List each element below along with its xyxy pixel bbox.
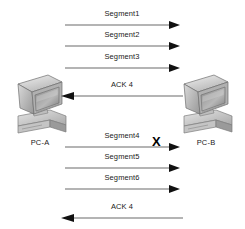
arrow-left-icon xyxy=(61,91,183,100)
message-label: Segment3 xyxy=(64,52,180,62)
message-label: Segment2 xyxy=(64,30,180,40)
message-label: Segment4 xyxy=(64,131,180,141)
host-label-pc-b: PC-B xyxy=(178,138,234,147)
tcp-sequence-diagram: PC-A xyxy=(0,0,245,229)
host-pc-b: PC-B xyxy=(178,70,234,136)
host-label-pc-a: PC-A xyxy=(12,138,68,147)
arrow-right-icon xyxy=(64,184,180,193)
arrow-right-icon xyxy=(64,20,180,29)
message-label: Segment6 xyxy=(64,173,180,183)
arrow-right-icon xyxy=(64,41,180,50)
message-row-segment6: Segment6 xyxy=(64,173,180,195)
desktop-computer-icon xyxy=(178,70,234,136)
message-row-ack4-second: ACK 4 xyxy=(61,202,183,224)
desktop-computer-icon xyxy=(12,70,68,136)
message-row-ack4-first: ACK 4 xyxy=(61,80,183,102)
message-row-segment3: Segment3 xyxy=(64,52,180,74)
segment-loss-x-marker: X xyxy=(152,135,161,148)
message-row-segment4: Segment4 xyxy=(64,131,180,153)
message-row-segment5: Segment5 xyxy=(64,152,180,174)
arrow-left-icon xyxy=(61,213,183,222)
message-row-segment2: Segment2 xyxy=(64,30,180,52)
arrow-right-icon xyxy=(64,63,180,72)
message-label: Segment5 xyxy=(64,152,180,162)
arrow-right-icon xyxy=(64,163,180,172)
message-label: ACK 4 xyxy=(61,80,183,90)
arrow-right-icon xyxy=(64,142,180,151)
message-row-segment1: Segment1 xyxy=(64,9,180,31)
message-label: ACK 4 xyxy=(61,202,183,212)
message-label: Segment1 xyxy=(64,9,180,19)
host-pc-a: PC-A xyxy=(12,70,68,136)
